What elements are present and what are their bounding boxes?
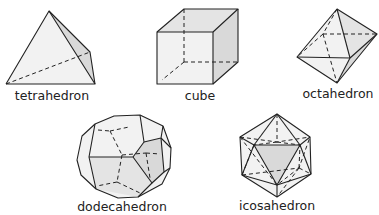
cube-figure [157, 9, 238, 84]
tetrahedron-label: tetrahedron [15, 88, 89, 103]
icosahedron-label: icosahedron [239, 198, 315, 213]
platonic-solids-diagram: tetrahedron cube octahedron dodecahedron… [0, 0, 379, 215]
tetrahedron-figure [6, 11, 95, 84]
icosahedron-figure [240, 114, 311, 197]
dodecahedron-figure [77, 115, 171, 198]
octahedron-figure [297, 9, 377, 83]
cube-label: cube [185, 88, 215, 103]
solids-canvas [0, 0, 379, 215]
dodecahedron-label: dodecahedron [77, 199, 167, 214]
octahedron-label: octahedron [302, 86, 373, 101]
